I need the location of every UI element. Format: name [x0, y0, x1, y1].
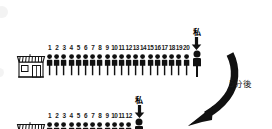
- shop-storefront-icon: [16, 119, 46, 129]
- person-standing-icon: [161, 52, 168, 77]
- queue-number: 10: [111, 44, 118, 51]
- person-standing-icon: [53, 120, 60, 129]
- person-standing-icon: [111, 120, 118, 129]
- person-standing-icon: [118, 120, 125, 129]
- person-standing-icon: [96, 52, 103, 77]
- person-standing-icon: [139, 52, 146, 77]
- person-standing-icon: [75, 52, 82, 77]
- me-label: 私: [193, 28, 201, 37]
- queue-number: 1: [46, 112, 53, 119]
- queue-number: 2: [53, 112, 60, 119]
- person-standing-icon: [175, 52, 182, 77]
- person-standing-icon: [132, 52, 139, 77]
- queue-number: 6: [82, 44, 89, 51]
- person-standing-icon: [46, 120, 53, 129]
- queue-number: 5: [75, 44, 82, 51]
- queue-row-before: 1234567891011121314151617181920 私: [16, 28, 204, 77]
- queue-number: 17: [161, 44, 168, 51]
- person-standing-icon: [82, 52, 89, 77]
- person-standing-icon: [68, 120, 75, 129]
- person-standing-icon: [53, 52, 60, 77]
- queue-diagram: 1234567891011121314151617181920 私: [0, 0, 272, 129]
- person-standing-icon: [96, 120, 103, 129]
- shop-storefront-icon: [16, 51, 46, 77]
- queue-number: 15: [147, 44, 154, 51]
- queue-numbers-before: 1234567891011121314151617181920: [46, 42, 190, 51]
- queue-figures-before: [46, 52, 190, 77]
- scan-artifact: [0, 6, 8, 18]
- person-standing-highlight-icon: [134, 118, 144, 129]
- queue-number: 11: [118, 44, 125, 51]
- queue-number: 2: [53, 44, 60, 51]
- queue-number: 8: [96, 112, 103, 119]
- queue-figures-after: [46, 120, 132, 129]
- queue-number: 12: [125, 44, 132, 51]
- person-standing-icon: [46, 52, 53, 77]
- queue-number: 8: [96, 44, 103, 51]
- queue-number: 13: [132, 44, 139, 51]
- person-standing-icon: [118, 52, 125, 77]
- person-standing-icon: [125, 52, 132, 77]
- person-standing-icon: [68, 52, 75, 77]
- queue-people-after: 123456789101112: [46, 110, 132, 129]
- person-standing-icon: [89, 120, 96, 129]
- queue-number: 4: [68, 112, 75, 119]
- queue-number: 10: [111, 112, 118, 119]
- queue-numbers-after: 123456789101112: [46, 110, 132, 119]
- queue-number: 6: [82, 112, 89, 119]
- me-label: 私: [135, 96, 143, 105]
- person-standing-icon: [60, 120, 67, 129]
- queue-number: 11: [118, 112, 125, 119]
- down-arrow-icon: [134, 105, 145, 118]
- queue-number: 9: [104, 112, 111, 119]
- person-standing-icon: [147, 52, 154, 77]
- person-standing-icon: [89, 52, 96, 77]
- transition-label: 5分後: [229, 79, 252, 89]
- queue-number: 19: [175, 44, 182, 51]
- person-standing-icon: [82, 120, 89, 129]
- me-marker-after: 私: [132, 96, 146, 129]
- person-standing-icon: [125, 120, 132, 129]
- queue-number: 7: [89, 44, 96, 51]
- scan-artifact: [0, 68, 4, 77]
- queue-number: 9: [104, 44, 111, 51]
- queue-number: 20: [183, 44, 190, 51]
- queue-people-before: 1234567891011121314151617181920: [46, 42, 190, 77]
- person-standing-icon: [104, 52, 111, 77]
- person-standing-icon: [168, 52, 175, 77]
- queue-number: 12: [125, 112, 132, 119]
- person-standing-icon: [75, 120, 82, 129]
- person-standing-icon: [111, 52, 118, 77]
- queue-number: 14: [139, 44, 146, 51]
- person-standing-icon: [60, 52, 67, 77]
- queue-number: 4: [68, 44, 75, 51]
- queue-number: 3: [60, 112, 67, 119]
- queue-number: 3: [60, 44, 67, 51]
- queue-number: 7: [89, 112, 96, 119]
- queue-number: 16: [154, 44, 161, 51]
- queue-number: 18: [168, 44, 175, 51]
- queue-number: 1: [46, 44, 53, 51]
- queue-row-after: 123456789101112 私: [16, 96, 146, 129]
- person-standing-icon: [154, 52, 161, 77]
- down-arrow-icon: [191, 37, 202, 50]
- person-standing-icon: [104, 120, 111, 129]
- queue-number: 5: [75, 112, 82, 119]
- curved-down-left-arrow-icon: [186, 52, 248, 129]
